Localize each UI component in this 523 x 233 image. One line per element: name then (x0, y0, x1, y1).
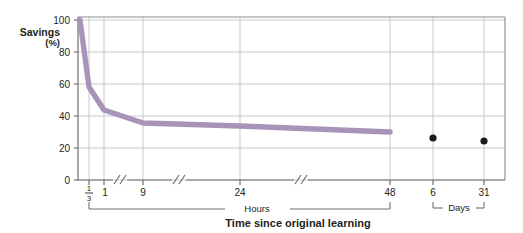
plot-area-background (78, 17, 505, 180)
x-tick-label-third-numerator: 1 (87, 184, 92, 193)
x-tick-label-1-hour: 1 (102, 187, 108, 198)
x-tick-label-48-hours: 48 (384, 187, 396, 198)
y-tick-label-40: 40 (59, 111, 71, 122)
y-tick-label-60: 60 (59, 79, 71, 90)
data-point-6-days (429, 134, 436, 141)
hours-group-label: Hours (244, 203, 270, 214)
y-tick-label-100: 100 (53, 15, 70, 26)
x-tick-label-6-days: 6 (430, 187, 436, 198)
x-tick-label-third-denominator: 3 (87, 194, 92, 203)
y-tick-label-20: 20 (59, 143, 71, 154)
x-tick-label-31-days: 31 (478, 187, 490, 198)
x-tick-label-24-hours: 24 (234, 187, 246, 198)
forgetting-curve-chart: Savings (%) (0, 0, 523, 233)
x-axis-tick-labels: 1 9 24 48 6 31 (102, 187, 490, 198)
x-axis-tick-marks (89, 180, 484, 185)
chart-canvas: 0 20 40 60 80 100 (0, 0, 523, 233)
y-tick-label-80: 80 (59, 47, 71, 58)
x-axis-title: Time since original learning (225, 217, 370, 229)
data-point-31-days (480, 137, 487, 144)
x-tick-label-9-hours: 9 (140, 187, 146, 198)
y-tick-label-0: 0 (64, 175, 70, 186)
hours-group-bracket (89, 202, 390, 209)
x-tick-label-third-hour: 1 3 (85, 184, 93, 203)
y-axis-tick-labels: 0 20 40 60 80 100 (53, 15, 70, 186)
days-group-label: Days (448, 202, 470, 213)
